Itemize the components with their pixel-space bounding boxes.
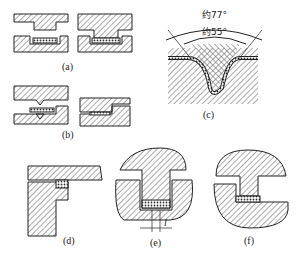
panel-e: l (e) <box>116 148 193 249</box>
angle-outer-label: 约77° <box>202 9 227 20</box>
label-d: (d) <box>63 235 75 247</box>
label-b: (b) <box>62 129 74 141</box>
label-f: (f) <box>244 235 254 247</box>
label-e: (e) <box>150 237 161 249</box>
label-c: (c) <box>203 109 214 121</box>
label-a: (a) <box>62 61 73 73</box>
panel-c: 约77° 约55° (c) <box>166 9 262 121</box>
panel-a: (a) <box>14 14 132 73</box>
figure-canvas: (a) (b) 约77° 约55° (c) (d) <box>0 0 302 264</box>
angle-inner-label: 约55° <box>202 26 227 37</box>
panel-f: (f) <box>214 150 288 247</box>
panel-d: (d) <box>28 166 102 247</box>
panel-b: (b) <box>14 86 130 141</box>
dimension-l-label: l <box>164 217 167 228</box>
